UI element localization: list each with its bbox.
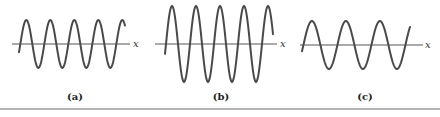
panel-label-c: (c) [357, 91, 373, 102]
panel-label-b: (b) [213, 91, 229, 102]
panel-b: x (b) [155, 6, 286, 102]
sine-wave-figure: x (a) x (b) x (c) [0, 0, 440, 117]
panel-c: x (c) [300, 21, 431, 102]
panel-a: x (a) [12, 20, 139, 102]
x-axis-label-a: x [133, 38, 139, 49]
x-axis-label-b: x [280, 38, 286, 49]
x-axis-label-c: x [425, 39, 431, 50]
separator-rule [0, 108, 440, 110]
panel-label-a: (a) [67, 91, 83, 102]
